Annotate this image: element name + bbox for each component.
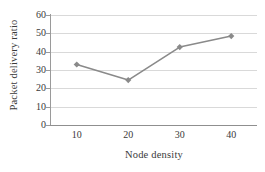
y-tick-label: 40	[22, 47, 46, 57]
series-line-packet-delivery-ratio	[77, 36, 232, 80]
x-axis-line	[50, 125, 257, 126]
y-tick-label: 30	[22, 65, 46, 75]
x-axis-tick-labels: 10 20 30 40	[51, 129, 257, 143]
chart-container: Packet delivery ratio 60 50 40 30 20 10 …	[0, 0, 265, 172]
y-tick-label: 0	[22, 120, 46, 130]
y-tick-label: 10	[22, 102, 46, 112]
y-axis-tick-labels: 60 50 40 30 20 10 0	[22, 0, 46, 172]
x-tick-label: 40	[211, 129, 251, 141]
x-tick-label: 20	[108, 129, 148, 141]
x-tick-label: 10	[57, 129, 97, 141]
x-tick-label: 30	[160, 129, 200, 141]
x-axis-title: Node density	[51, 148, 257, 161]
data-point-marker	[228, 33, 234, 39]
y-tick-label: 60	[22, 10, 46, 20]
data-point-marker	[74, 61, 80, 67]
y-tick-label: 50	[22, 28, 46, 38]
plot-area	[51, 15, 257, 125]
y-axis-title: Packet delivery ratio	[6, 0, 22, 130]
series-plot	[51, 15, 257, 125]
y-tick-label: 20	[22, 83, 46, 93]
